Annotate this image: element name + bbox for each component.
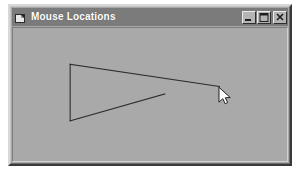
close-icon	[274, 12, 286, 23]
screen: Mouse Locations	[0, 0, 302, 180]
client-area[interactable]	[12, 27, 288, 162]
application-window: Mouse Locations	[8, 4, 292, 166]
maximize-icon	[258, 12, 270, 23]
application-icon	[14, 11, 27, 24]
trail-segment-diagonal-edge	[70, 94, 165, 121]
maximize-button[interactable]	[257, 11, 271, 24]
trail-segment-hook-at-cursor	[219, 86, 220, 89]
close-button[interactable]	[273, 11, 287, 24]
window-controls	[242, 11, 287, 24]
minimize-button[interactable]	[242, 11, 256, 24]
window-title: Mouse Locations	[31, 10, 242, 24]
mouse-trail-paths	[70, 64, 220, 120]
trail-segment-top-edge	[70, 64, 219, 86]
title-bar[interactable]: Mouse Locations	[12, 8, 288, 26]
minimize-icon	[243, 12, 255, 23]
mouse-trail-canvas	[13, 28, 287, 161]
